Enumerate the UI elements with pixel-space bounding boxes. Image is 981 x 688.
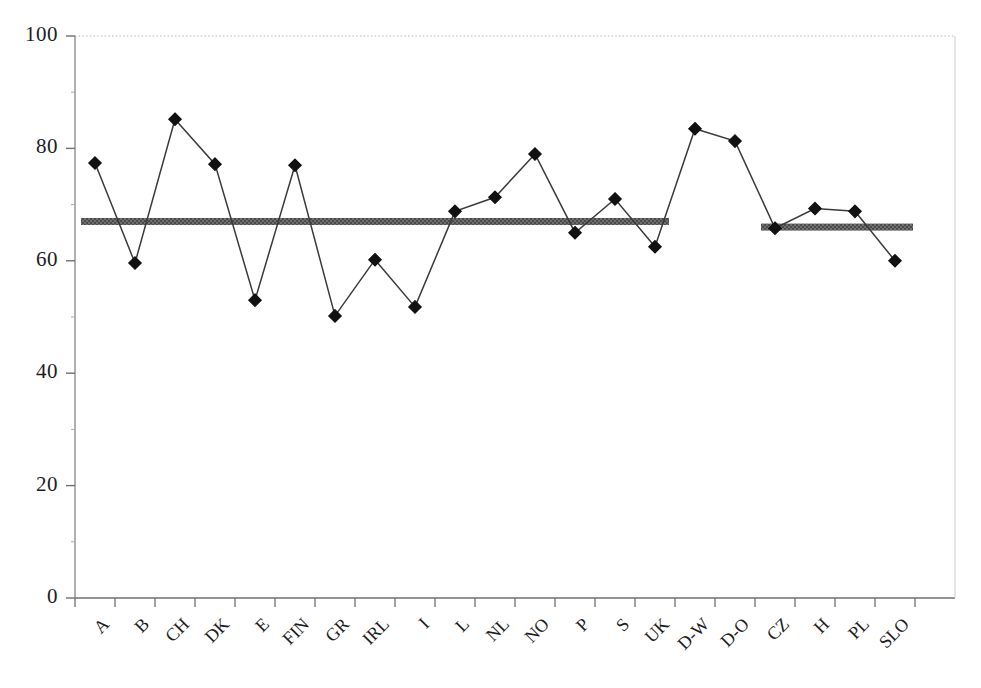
data-line (95, 119, 895, 316)
line-chart-plot (0, 0, 981, 688)
data-markers (89, 113, 901, 322)
reference-bands (81, 218, 913, 231)
y-axis-ticks (66, 36, 75, 598)
x-axis-ticks (75, 598, 915, 607)
plot-frame (75, 36, 955, 598)
chart-container: 020406080100 ABCHDKEFINGRIRLILNLNOPSUKD-… (0, 0, 981, 688)
